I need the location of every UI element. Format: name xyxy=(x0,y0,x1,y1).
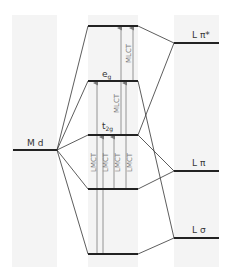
mlct-label-upper: MLCT xyxy=(125,43,133,63)
label-t2g-sub: 2g xyxy=(106,125,114,133)
lmct-label-4: LMCT xyxy=(126,152,134,172)
lmct-label-1: LMCT xyxy=(90,152,98,172)
mlct-label-lower: MLCT xyxy=(113,93,121,113)
metal-connectors xyxy=(57,26,88,254)
ligand-connectors xyxy=(138,26,174,254)
label-eg-sub: g xyxy=(108,73,112,81)
mo-diagram: M d eg t2g L π* L π L σ MLCT MLCT LMCT L… xyxy=(0,0,229,273)
label-ligand-sigma: L σ xyxy=(192,225,206,235)
label-ligand-pi: L π xyxy=(192,158,206,168)
label-ligand-pi-star: L π* xyxy=(192,30,210,40)
label-metal-d: M d xyxy=(27,138,43,148)
lmct-label-2: LMCT xyxy=(102,152,110,172)
lmct-label-3: LMCT xyxy=(114,152,122,172)
